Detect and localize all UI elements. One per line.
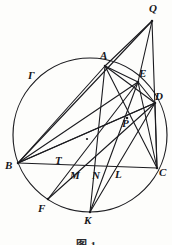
point-label-e: E <box>139 68 146 79</box>
figure-caption: 图 1 <box>0 236 172 245</box>
vertex-dot-a <box>104 65 107 68</box>
chord-DB-alt <box>18 103 155 163</box>
vertex-dot-q <box>151 20 154 23</box>
point-label-l: L <box>115 169 122 180</box>
vertex-dot-k <box>89 211 92 214</box>
geometry-figure: QAEDPBCTMNLFK Γ 图 1 <box>0 0 172 245</box>
circle-gamma-group <box>13 58 167 212</box>
circle-label-gamma: Γ <box>28 70 35 81</box>
point-label-m: M <box>70 170 80 181</box>
circle-center-dot <box>86 138 88 140</box>
point-label-t: T <box>55 155 62 166</box>
vertex-dot-e <box>137 81 140 84</box>
vertex-dot-f <box>47 198 50 201</box>
chord-BE <box>18 82 138 163</box>
point-label-b: B <box>5 160 12 171</box>
point-label-n: N <box>92 170 100 181</box>
geometry-canvas <box>0 0 172 245</box>
point-label-p: P <box>122 118 129 129</box>
circle-gamma <box>13 58 167 212</box>
vertex-dot-c <box>156 167 159 170</box>
chord-DF <box>48 103 155 199</box>
chord-AC <box>105 66 157 168</box>
segments-group <box>18 21 157 212</box>
point-label-a: A <box>100 50 107 61</box>
vertex-dot-d <box>154 102 157 105</box>
point-label-c: C <box>159 167 166 178</box>
point-label-f: F <box>38 203 45 214</box>
vertex-dot-b <box>17 162 20 165</box>
chord-AE <box>105 66 138 82</box>
point-label-d: D <box>155 91 163 102</box>
point-label-q: Q <box>149 3 157 14</box>
point-label-k: K <box>84 215 91 226</box>
